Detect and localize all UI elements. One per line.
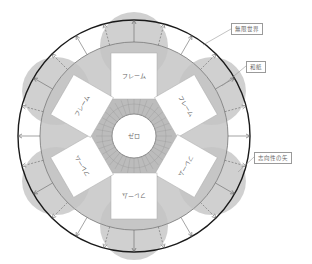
zero-label: ゼロ [128, 132, 140, 139]
ray-line [181, 36, 192, 55]
frame-0: フレーム [111, 53, 157, 99]
frame-label: フレーム [122, 72, 146, 79]
frame-3: フレーム [111, 173, 157, 219]
ray-line [76, 217, 87, 236]
callout-arrow-of-intentionality: 志向性の矢 [254, 152, 292, 164]
frame-label: フレーム [122, 193, 146, 200]
ray-line [76, 36, 87, 55]
callout-infinite-world: 無限世界 [231, 23, 263, 35]
callout-line-infinite-world [203, 29, 231, 45]
zero-frame-diagram: フレームフレームフレームフレームフレームフレーム ゼロ [0, 0, 312, 264]
ray-line [181, 217, 192, 236]
callout-washi: 和紙 [246, 61, 266, 73]
